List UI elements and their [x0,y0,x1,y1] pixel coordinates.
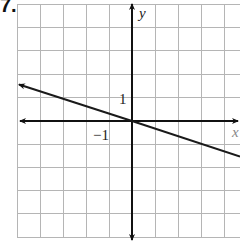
coordinate-plane-figure: 7. [0,0,240,246]
y-axis-label: y [139,6,146,21]
graph-canvas [0,0,240,246]
axes [20,4,238,240]
x-axis-label: x [232,125,239,140]
tick-label-x-neg1: −1 [93,128,109,143]
tick-label-y-1: 1 [119,92,127,107]
